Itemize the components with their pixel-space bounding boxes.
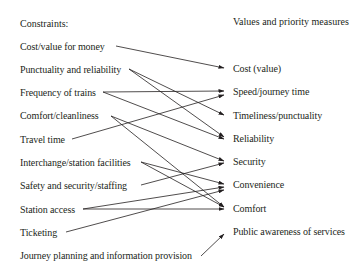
arrow-cost-to-cost-value bbox=[116, 46, 224, 68]
arrow-travel-time-to-speed bbox=[72, 95, 224, 139]
arrow-ticketing-to-convenience bbox=[66, 190, 224, 232]
arrow-station-access-to-convenience bbox=[83, 187, 224, 209]
arrow-safety-to-security bbox=[141, 163, 224, 185]
arrow-frequency-to-reliability bbox=[103, 92, 224, 139]
arrow-journey-planning-to-public-awareness bbox=[201, 234, 224, 256]
constraints-values-diagram: Constraints: Cost/value for money Punctu… bbox=[0, 0, 363, 277]
arrow-punctuality-to-reliability bbox=[129, 69, 224, 137]
connection-arrows bbox=[0, 0, 363, 277]
arrow-interchange-to-convenience bbox=[141, 162, 224, 184]
arrow-comfort-cleanliness-to-comfort bbox=[111, 116, 224, 207]
arrow-frequency-to-speed bbox=[103, 91, 224, 92]
arrow-interchange-to-comfort bbox=[141, 162, 224, 207]
